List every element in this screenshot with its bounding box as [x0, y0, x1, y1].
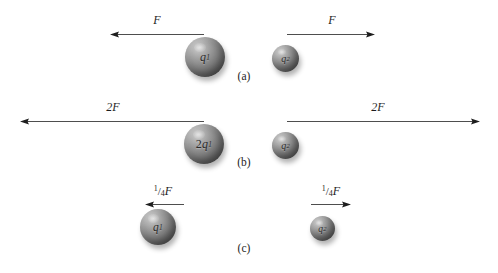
force-label-c-right: 1/4F: [322, 184, 340, 199]
charge-label-b-2q1: 2q1: [184, 124, 224, 164]
charge-sphere-b-2q1: 2q1: [184, 124, 224, 164]
charge-label-a-q2: q2: [272, 45, 299, 72]
charge-sphere-c-q1: q1: [140, 209, 176, 245]
charge-sphere-c-q2: q2: [310, 216, 335, 241]
row-caption-c: (c): [238, 242, 251, 254]
force-label-b-right: 2F: [371, 100, 384, 115]
force-arrow-b-right: [287, 117, 480, 126]
force-label-c-left: 1/4F: [154, 184, 172, 199]
force-label-b-left: 2F: [106, 100, 119, 115]
force-arrow-c-right: [311, 200, 351, 209]
force-arrow-a-right: [287, 30, 375, 39]
force-label-a-left: F: [153, 13, 160, 28]
charge-label-c-q1: q1: [140, 209, 176, 245]
force-arrow-b-left: [20, 117, 205, 126]
charge-sphere-a-q2: q2: [272, 45, 299, 72]
charge-label-a-q1: q1: [185, 37, 225, 77]
charge-sphere-a-q1: q1: [185, 37, 225, 77]
force-arrow-a-left: [110, 30, 205, 39]
coulomb-force-figure: F F q1 q2 (a) 2F 2F 2q1: [0, 0, 498, 273]
row-caption-a: (a): [238, 70, 251, 82]
force-label-a-right: F: [328, 13, 335, 28]
row-caption-b: (b): [237, 156, 250, 168]
force-arrow-c-left: [145, 200, 185, 209]
charge-label-b-q2: q2: [272, 132, 299, 159]
charge-sphere-b-q2: q2: [272, 132, 299, 159]
charge-label-c-q2: q2: [310, 216, 335, 241]
